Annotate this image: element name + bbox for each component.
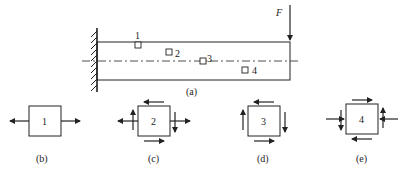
- beam-stress-diagram: F 1 2 3 4 (a) 1 (b) 2 (c) 3 (d): [0, 0, 406, 177]
- svg-text:3: 3: [261, 116, 266, 127]
- svg-text:(e): (e): [356, 153, 367, 165]
- svg-text:(b): (b): [36, 153, 48, 165]
- point-4-marker: [242, 67, 248, 73]
- svg-text:1: 1: [42, 116, 47, 127]
- element-1: 1 (b): [10, 106, 80, 165]
- point-2-marker: [166, 49, 172, 55]
- svg-text:(c): (c): [148, 153, 159, 165]
- svg-text:2: 2: [151, 116, 156, 127]
- element-3: 3 (d): [243, 102, 285, 165]
- point-3-label: 3: [207, 53, 212, 64]
- caption-a: (a): [186, 86, 197, 98]
- load-label: F: [275, 7, 283, 18]
- point-1-marker: [135, 42, 141, 48]
- element-4: 4 (e): [326, 100, 398, 165]
- point-4-label: 4: [252, 65, 257, 76]
- svg-text:(d): (d): [257, 153, 269, 165]
- element-2: 2 (c): [118, 102, 190, 165]
- point-1-label: 1: [135, 30, 140, 41]
- point-2-label: 2: [175, 48, 180, 59]
- svg-text:4: 4: [359, 114, 364, 125]
- fixed-support: [91, 28, 97, 92]
- point-3-marker: [200, 58, 206, 64]
